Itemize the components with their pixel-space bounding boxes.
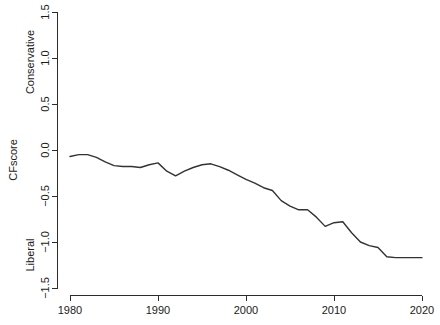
y-tick-label: −1.5 [39,277,51,299]
x-tick-label: 2000 [234,304,258,316]
y-tick-label: −0.5 [39,185,51,207]
line-chart: −1.5−1.0−0.50.00.51.01.5 198019902000201… [0,0,440,325]
y-tick-label: 1.5 [39,4,51,19]
chart-figure: −1.5−1.0−0.50.00.51.01.5 198019902000201… [0,0,440,325]
x-tick-label: 2010 [322,304,346,316]
y-tick-label: 0.0 [39,142,51,157]
y-axis-conservative-label: Conservative [24,30,36,94]
y-axis-ticks: −1.5−1.0−0.50.00.51.01.5 [39,4,58,299]
series-line-cfscore [70,155,422,258]
y-axis-title: CFscore [7,139,19,181]
y-tick-label: −1.0 [39,231,51,253]
y-tick-label: 1.0 [39,50,51,65]
x-tick-label: 1980 [58,304,82,316]
y-tick-label: 0.5 [39,96,51,111]
y-axis-liberal-label: Liberal [24,238,36,271]
x-tick-label: 1990 [146,304,170,316]
x-axis-ticks: 19801990200020102020 [58,296,434,317]
x-tick-label: 2020 [410,304,434,316]
